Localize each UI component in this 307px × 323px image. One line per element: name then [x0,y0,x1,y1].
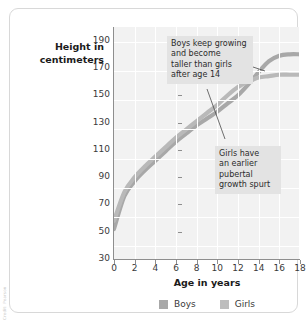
x-tick-label: 4 [145,263,165,273]
annotation-girls-line-4: growth spurt [219,180,277,190]
legend-label-girls: Girls [235,299,255,309]
annotation-boys-line-4: after age 14 [171,70,249,80]
x-tick-label: 8 [187,263,207,273]
x-tick-label: 16 [269,263,289,273]
annotation-boys-line-2: and become [171,49,249,59]
x-tick-mark [300,260,301,264]
x-tick-mark [197,260,198,264]
x-tick-mark [176,260,177,264]
legend-swatch-girls-icon [220,300,229,309]
x-tick-mark [238,260,239,264]
chart-figure: Height in centimeters Age in years 30507… [9,8,298,313]
x-tick-label: 10 [207,263,227,273]
annotation-girls-line-3: pubertal [219,170,277,180]
x-tick-mark [259,260,260,264]
x-tick-label: 0 [104,263,124,273]
x-tick-label: 12 [228,263,248,273]
legend-item-boys: Boys [159,299,196,309]
annotation-boys-line-1: Boys keep growing [171,39,249,49]
x-tick-mark [114,260,115,264]
x-tick-label: 2 [125,263,145,273]
legend-label-boys: Boys [174,299,196,309]
legend-swatch-boys-icon [159,300,168,309]
annotation-boys-line-3: taller than girls [171,60,249,70]
x-tick-mark [155,260,156,264]
legend-item-girls: Girls [220,299,255,309]
x-tick-mark [217,260,218,264]
annotation-boys: Boys keep growing and become taller than… [167,36,253,84]
attribution-text: Credit: Pearson [0,268,9,320]
x-tick-label: 14 [249,263,269,273]
x-tick-label: 18 [290,263,307,273]
x-tick-mark [135,260,136,264]
x-tick-label: 6 [166,263,186,273]
annotation-girls-line-2: an earlier [219,159,277,169]
x-tick-mark [279,260,280,264]
annotation-girls-line-1: Girls have [219,149,277,159]
chart-legend: Boys Girls [114,299,300,309]
annotation-girls: Girls have an earlier pubertal growth sp… [215,146,281,194]
